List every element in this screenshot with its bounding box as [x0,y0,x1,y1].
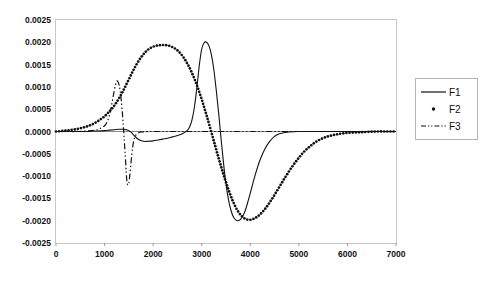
series-marker-f2 [194,79,197,82]
series-marker-f2 [255,216,258,219]
series-marker-f2 [299,155,302,158]
series-marker-f2 [58,130,61,133]
series-marker-f2 [189,67,192,70]
series-marker-f2 [203,105,206,108]
series-marker-f2 [207,121,210,124]
series-marker-f2 [235,207,238,210]
series-marker-f2 [252,218,255,221]
series-marker-f2 [315,140,318,143]
series-marker-f2 [200,96,203,99]
series-marker-f2 [295,160,298,163]
series-marker-f2 [150,46,153,49]
series-marker-f2 [182,56,185,59]
y-tick-label: 0.0015 [25,60,51,70]
series-marker-f2 [198,90,201,93]
series-marker-f2 [392,130,395,133]
series-marker-f2 [223,175,226,178]
series-marker-f2 [201,99,204,102]
series-marker-f2 [208,124,211,127]
series-marker-f2 [215,148,218,151]
y-tick-label: -0.0025 [22,238,51,248]
series-marker-f2 [348,131,351,134]
series-marker-f2 [389,130,392,133]
series-marker-f2 [380,130,383,133]
y-tick-label: 0.0005 [25,104,51,114]
legend-box [416,79,478,140]
series-marker-f2 [219,163,222,166]
y-tick-label: -0.0010 [22,171,51,181]
series-marker-f2 [89,124,92,127]
series-marker-f2 [206,118,209,121]
series-marker-f2 [383,130,386,133]
series-marker-f2 [364,131,367,134]
series-marker-f2 [232,202,235,205]
series-marker-f2 [370,130,373,133]
y-tick-label: 0.0020 [25,37,51,47]
series-marker-f2 [293,162,296,165]
series-marker-f2 [237,210,240,213]
series-marker-f2 [358,131,361,134]
series-marker-f2 [286,173,289,176]
series-marker-f2 [61,130,64,133]
series-marker-f2 [121,91,124,94]
series-marker-f2 [308,146,311,149]
series-marker-f2 [192,76,195,79]
series-marker-f2 [212,139,215,142]
series-marker-f2 [241,215,244,218]
series-marker-f2 [131,71,134,74]
series-marker-f2 [196,85,199,88]
series-marker-f2 [91,123,94,126]
series-marker-f2 [135,63,138,66]
series-marker-f2 [228,190,231,193]
series-marker-f2 [249,218,252,221]
series-marker-f2 [109,109,112,112]
series-marker-f2 [77,127,80,130]
series-marker-f2 [197,88,200,91]
series-marker-f2 [234,205,237,208]
series-marker-f2 [274,192,277,195]
series-marker-f2 [291,165,294,168]
series-marker-f2 [271,197,274,200]
series-marker-f2 [104,114,107,117]
y-tick-label: -0.0005 [22,149,51,159]
legend-label-f1: F1 [449,87,461,98]
series-marker-f2 [184,59,187,62]
series-marker-f2 [162,44,165,47]
series-marker-f2 [159,44,162,47]
chart-legend: F1 F2 F3 [416,79,478,140]
series-marker-f2 [264,207,267,210]
series-marker-f2 [305,148,308,151]
series-marker-f2 [204,109,207,112]
series-marker-f2 [73,128,76,131]
series-marker-f2 [134,66,137,69]
legend-label-f2: F2 [449,104,461,115]
series-marker-f2 [199,93,202,96]
series-marker-f2 [139,58,142,61]
series-marker-f2 [220,166,223,169]
chart-canvas: 0.00250.00200.00150.00100.00050.0000-0.0… [0,0,488,292]
series-marker-f2 [213,142,216,145]
x-tick-label: 3000 [192,249,211,259]
series-marker-f2 [176,49,179,52]
series-marker-f2 [102,116,105,119]
series-marker-f2 [107,112,110,115]
series-marker-f2 [268,202,271,205]
series-marker-f2 [278,186,281,189]
series-marker-f2 [289,168,292,171]
series-marker-f2 [216,151,219,154]
series-marker-f2 [230,196,233,199]
series-marker-f2 [147,48,150,51]
series-marker-f2 [225,181,228,184]
series-marker-f2 [276,189,279,192]
series-marker-f2 [145,50,148,53]
series-marker-f2 [118,96,121,99]
series-marker-f2 [83,126,86,129]
series-marker-f2 [190,70,193,73]
series-marker-f2 [210,130,213,133]
series-marker-f2 [127,80,130,83]
series-marker-f2 [132,68,135,71]
series-marker-f2 [70,129,73,132]
series-marker-f2 [216,154,219,157]
series-marker-f2 [195,82,198,85]
series-marker-f2 [205,115,208,118]
